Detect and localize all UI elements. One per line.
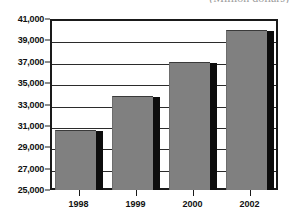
bar-series (50, 19, 278, 190)
bar-fill (112, 96, 153, 190)
x-axis-tick-label: 1998 (68, 199, 88, 209)
y-axis: 25,00027,00029,00031,00033,00035,00037,0… (0, 19, 50, 190)
bar-shadow (267, 31, 274, 190)
y-axis-tick-label: 35,000 (18, 78, 44, 88)
y-axis-tick-label: 37,000 (18, 57, 44, 67)
y-axis-tick-label: 31,000 (18, 121, 44, 131)
y-axis-tick-label: 29,000 (18, 142, 44, 152)
bar-chart: (Million dollars) 25,00027,00029,00031,0… (0, 0, 289, 217)
bar-shadow (210, 63, 217, 190)
bar-shadow (96, 131, 103, 190)
bar-fill (226, 30, 267, 190)
chart-title: (Million dollars) (150, 0, 289, 3)
bar-fill (55, 130, 96, 190)
x-axis-tick-label: 2002 (239, 199, 259, 209)
x-axis-tick (136, 190, 137, 196)
y-axis-tick-label: 39,000 (18, 35, 44, 45)
bar-shadow (153, 97, 160, 190)
bar (169, 63, 210, 190)
y-axis-tick-label: 27,000 (18, 164, 44, 174)
x-axis: 1998199920002002 (50, 190, 278, 217)
y-axis-tick-label: 33,000 (18, 100, 44, 110)
y-axis-tick-label: 41,000 (18, 14, 44, 24)
bar (112, 97, 153, 190)
x-axis-tick-label: 1999 (125, 199, 145, 209)
x-axis-tick-label: 2000 (182, 199, 202, 209)
bar (226, 31, 267, 190)
y-axis-tick-label: 25,000 (18, 185, 44, 195)
x-axis-tick (79, 190, 80, 196)
bar-fill (169, 62, 210, 190)
x-axis-tick (250, 190, 251, 196)
x-axis-tick (193, 190, 194, 196)
bar (55, 131, 96, 190)
